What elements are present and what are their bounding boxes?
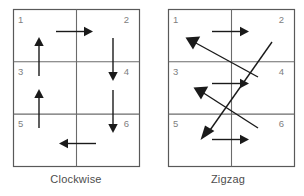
cell-number-3: 3	[173, 66, 178, 77]
arrow-head-up-left	[186, 36, 201, 49]
figure-root: 1 2 3 4 5 6	[0, 0, 304, 196]
arrow-head-right	[240, 27, 249, 36]
cell-number-1: 1	[173, 14, 178, 25]
arrow-head-down	[108, 124, 117, 133]
panel-clockwise: 1 2 3 4 5 6	[0, 0, 152, 196]
arrow-6-to-5	[59, 139, 96, 148]
arrow-1-to-2	[56, 27, 93, 36]
cell-number-4: 4	[279, 66, 284, 77]
arrow-row2-right	[212, 79, 249, 88]
arrow-head-right	[84, 27, 93, 36]
arrow-4-to-6	[108, 90, 117, 133]
clockwise-diagram: 1 2 3 4 5 6	[0, 0, 152, 170]
cell-number-2: 2	[124, 14, 129, 25]
arrow-3-to-1	[34, 37, 43, 76]
arrow-diag-2-to-3	[186, 36, 259, 77]
cell-number-4: 4	[124, 66, 129, 77]
caption-clockwise: Clockwise	[0, 172, 152, 186]
arrow-row3-right	[212, 135, 249, 144]
cell-number-1: 1	[18, 14, 23, 25]
zigzag-diagram: 1 2 3 4 5 6	[152, 0, 304, 170]
cell-number-6: 6	[279, 118, 284, 129]
arrow-head-up	[34, 89, 43, 98]
arrow-head-up-left	[194, 86, 209, 99]
panel-zigzag: 1 2 3 4 5 6	[152, 0, 304, 196]
cell-number-6: 6	[124, 118, 129, 129]
cell-number-5: 5	[173, 118, 178, 129]
arrow-5-to-3	[34, 89, 43, 128]
arrow-diag-3-to-4-return	[201, 42, 273, 140]
arrow-head-right	[240, 135, 249, 144]
arrow-head-left	[59, 139, 68, 148]
arrow-2-to-4	[108, 38, 117, 81]
arrow-head-up	[34, 37, 43, 46]
cell-number-3: 3	[18, 66, 23, 77]
cell-number-5: 5	[18, 118, 23, 129]
cell-number-2: 2	[279, 14, 284, 25]
arrow-row1-right	[212, 27, 249, 36]
caption-zigzag: Zigzag	[152, 172, 304, 186]
arrow-head-down	[108, 72, 117, 81]
